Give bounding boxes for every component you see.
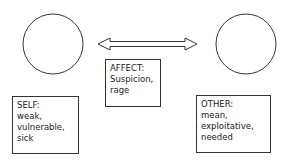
self-line-2: vulnerable, [17, 122, 74, 133]
other-line-2: exploitative, [201, 121, 266, 132]
other-circle [216, 14, 276, 74]
affect-title: AFFECT: [110, 63, 156, 74]
other-box: OTHER: mean, exploitative, needed [196, 95, 271, 153]
affect-box: AFFECT: Suspicion, rage [105, 59, 161, 107]
self-box: SELF: weak, vulnerable, sick [12, 96, 79, 154]
other-title: OTHER: [201, 99, 266, 110]
double-arrow-icon [98, 38, 197, 50]
self-title: SELF: [17, 100, 74, 111]
other-line-1: mean, [201, 110, 266, 121]
self-line-1: weak, [17, 111, 74, 122]
other-line-3: needed [201, 132, 266, 143]
affect-line-2: rage [110, 85, 156, 96]
self-circle [23, 14, 83, 74]
affect-line-1: Suspicion, [110, 74, 156, 85]
self-line-3: sick [17, 133, 74, 144]
